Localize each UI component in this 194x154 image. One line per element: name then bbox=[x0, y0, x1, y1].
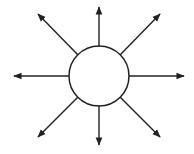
arrow-south-west bbox=[38, 97, 78, 137]
diagram-canvas bbox=[0, 0, 194, 154]
arrow-north-east bbox=[120, 14, 160, 55]
center-circle bbox=[69, 46, 129, 106]
arrow-north-west bbox=[38, 14, 78, 55]
radial-diagram bbox=[0, 0, 194, 154]
arrow-south-east bbox=[120, 97, 160, 137]
